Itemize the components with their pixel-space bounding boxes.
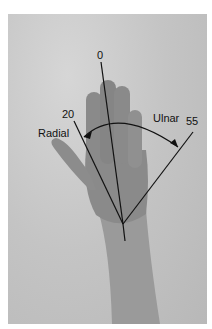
index-finger: [86, 92, 102, 164]
hand-illustration: [0, 0, 212, 329]
label-ulnar: Ulnar: [153, 113, 179, 124]
ulnar-arrowhead-icon: [170, 139, 178, 147]
label-radial-angle: 20: [62, 109, 74, 120]
label-ulnar-angle: 55: [186, 116, 198, 127]
forearm: [98, 210, 160, 324]
label-zero: 0: [97, 50, 103, 61]
little-finger: [128, 110, 142, 168]
ring-finger: [114, 86, 130, 164]
label-radial: Radial: [38, 128, 69, 139]
